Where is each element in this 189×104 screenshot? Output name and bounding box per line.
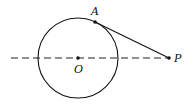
point-A bbox=[93, 20, 97, 24]
point-P bbox=[167, 56, 171, 60]
tangent-diagram: A O P bbox=[0, 0, 189, 104]
label-A: A bbox=[90, 5, 99, 18]
label-O: O bbox=[74, 63, 83, 76]
label-P: P bbox=[173, 52, 182, 65]
point-O bbox=[76, 56, 80, 60]
tangent-segment-AP bbox=[95, 22, 169, 58]
